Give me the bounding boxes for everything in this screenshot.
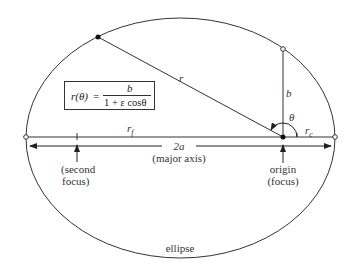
origin-focus-point [281, 135, 286, 140]
label-rc-sub: c [309, 130, 313, 139]
label-major-axis: (major axis) [152, 152, 205, 164]
label-two-a: 2a [174, 140, 185, 152]
label-second-focus-1: (second [61, 163, 95, 175]
left-vertex [24, 135, 29, 140]
label-rf-sub: f [131, 128, 133, 137]
label-r: r [179, 72, 183, 84]
formula-lhs: r(θ) [71, 90, 88, 102]
formula-box: r(θ) = b 1 + ε cosθ [64, 81, 155, 110]
b-endpoint [281, 47, 286, 52]
label-b: b [286, 87, 292, 99]
formula-equals: = [93, 90, 99, 102]
formula-denominator: 1 + ε cosθ [104, 97, 146, 108]
ellipse-curve [26, 18, 335, 258]
ellipse-diagram [0, 0, 356, 274]
label-origin-focus: (focus) [267, 175, 298, 187]
label-second-focus-2: focus) [62, 175, 90, 187]
formula-numerator: b [127, 82, 133, 94]
label-rf: rf [127, 122, 134, 139]
fraction-bar [103, 95, 151, 96]
label-rc: rc [305, 124, 313, 141]
label-origin: origin [270, 163, 296, 175]
label-theta: θ [289, 111, 294, 123]
orbit-point [96, 35, 101, 40]
right-vertex [333, 135, 338, 140]
label-ellipse: ellipse [166, 242, 195, 254]
